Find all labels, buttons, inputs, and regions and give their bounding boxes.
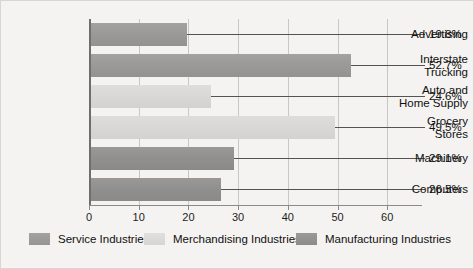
y-axis-line (89, 19, 91, 205)
legend-item-service[interactable]: Service Industries (29, 231, 149, 247)
x-tick-label: 30 (218, 211, 258, 223)
bar[interactable] (89, 23, 187, 46)
x-tick-mark (89, 205, 90, 210)
category-label-line: Computers (387, 183, 468, 196)
category-label-line: Stores (387, 128, 468, 141)
x-tick-mark (288, 205, 289, 210)
bar[interactable] (89, 54, 351, 77)
x-tick-label: 60 (367, 211, 407, 223)
legend-label: Merchandising Industries (173, 233, 301, 245)
plot-area (89, 19, 422, 205)
bar-chart-figure: 0102030405060 19.8%52.7%24.6%49.5%29.1%2… (0, 0, 474, 269)
x-tick-mark (188, 205, 189, 210)
x-tick-label: 0 (69, 211, 109, 223)
category-label: GroceryStores (387, 115, 473, 140)
legend-swatch-icon (29, 233, 50, 245)
x-tick-mark (139, 205, 140, 210)
bar[interactable] (89, 85, 211, 108)
x-tick-label: 10 (119, 211, 159, 223)
category-label-line: Interstate (387, 53, 468, 66)
category-label-line: Auto and (387, 84, 468, 97)
x-tick-label: 20 (168, 211, 208, 223)
category-label: InterstateTrucking (387, 53, 473, 78)
category-label-line: Machinery (387, 152, 468, 165)
bar[interactable] (89, 147, 234, 170)
category-label: Computers (387, 183, 473, 196)
legend-item-merchandising[interactable]: Merchandising Industries (144, 231, 301, 247)
x-tick-mark (387, 205, 388, 210)
chart-legend: Service IndustriesMerchandising Industri… (1, 231, 474, 251)
bar[interactable] (89, 116, 335, 139)
x-tick-mark (238, 205, 239, 210)
legend-swatch-icon (144, 233, 165, 245)
bar-row (89, 50, 422, 81)
legend-item-manufacturing[interactable]: Manufacturing Industries (296, 231, 451, 247)
bar-row (89, 112, 422, 143)
legend-label: Manufacturing Industries (325, 233, 451, 245)
x-tick-label: 50 (318, 211, 358, 223)
bar-row (89, 19, 422, 50)
bar-row (89, 81, 422, 112)
bar[interactable] (89, 178, 221, 201)
category-label: Advertising (387, 28, 473, 41)
category-label-line: Trucking (387, 66, 468, 79)
legend-swatch-icon (296, 233, 317, 245)
x-tick-mark (338, 205, 339, 210)
category-label: Auto andHome Supply (387, 84, 473, 109)
bar-row (89, 174, 422, 205)
category-label-line: Home Supply (387, 97, 468, 110)
category-label-line: Grocery (387, 115, 468, 128)
category-label: Machinery (387, 152, 473, 165)
bar-row (89, 143, 422, 174)
x-tick-label: 40 (268, 211, 308, 223)
legend-label: Service Industries (58, 233, 149, 245)
category-label-line: Advertising (387, 28, 468, 41)
